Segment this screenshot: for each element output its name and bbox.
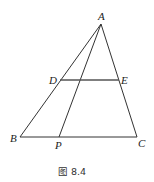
- label-C: C: [138, 137, 146, 149]
- geometry-figure: A D E B P C 图 8.4: [0, 0, 154, 182]
- label-D: D: [48, 74, 57, 86]
- label-A: A: [97, 10, 105, 22]
- label-B: B: [10, 132, 17, 144]
- figure-caption: 图 8.4: [58, 166, 86, 177]
- label-E: E: [120, 74, 128, 86]
- label-P: P: [54, 139, 62, 151]
